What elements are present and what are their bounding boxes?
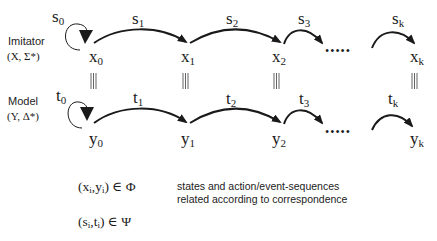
transition-arrow-t1 [94,109,186,123]
correspondence-mark-2 [274,73,279,89]
legend: (xi,yi) ∈ Φ (si,ti) ∈ Ψ states and actio… [78,179,348,230]
model-title: Model [8,95,38,107]
correspondence-diagram: Imitator (X, Σ*) s0 s1 s2 s3 ••••• sk x0… [0,0,437,241]
state-x1: x1 [181,47,195,67]
correspondence-mark-1 [183,73,188,89]
transition-arrow-t3 [284,110,322,124]
imitator-ellipsis: ••••• [325,44,351,58]
transition-arrow-t2 [190,109,280,123]
state-y0: y0 [89,129,104,149]
model-ellipsis: ••••• [325,125,351,139]
self-loop-s0: s0 [52,7,93,50]
model-row: Model (Y, Δ*) t0 t1 t2 t3 ••••• tk y0 y1… [7,86,425,149]
loop-arrowhead-icon [79,30,93,44]
state-x2: x2 [272,47,286,67]
loop-arrowhead-icon [80,107,94,121]
state-y1: y1 [181,129,195,149]
action-label-s0: s0 [52,7,65,27]
imitator-title: Imitator [8,35,45,47]
imitator-row: Imitator (X, Σ*) s0 s1 s2 s3 ••••• sk x0… [7,7,425,67]
transition-arrow-s1 [94,29,186,43]
correspondence-mark-0 [91,73,96,89]
correspondence-marks [91,73,417,89]
state-yk: yk [410,129,425,149]
caption-line-2: related according to correspondence [177,193,348,205]
correspondence-mark-k [412,73,417,89]
model-signature: (Y, Δ*) [7,110,39,123]
action-label-s1: s1 [132,9,144,29]
state-y2: y2 [272,129,286,149]
action-label-t0: t0 [56,86,67,106]
state-x0: x0 [89,47,104,67]
action-label-t2: t2 [226,89,236,109]
action-label-t1: t1 [133,88,143,108]
action-label-s2: s2 [226,9,238,29]
action-label-tk: tk [388,89,399,109]
state-relation-formula: (xi,yi) ∈ Φ [78,179,136,195]
action-label-t3: t3 [299,89,310,109]
caption-line-1: states and action/event-sequences [177,180,339,192]
action-label-sk: sk [392,9,405,29]
action-relation-formula: (si,ti) ∈ Ψ [78,214,131,230]
transition-arrow-sk [372,32,414,48]
action-label-s3: s3 [298,9,311,29]
state-xk: xk [410,47,425,67]
transition-arrow-s2 [190,29,280,43]
transition-arrow-s3 [284,30,322,44]
self-loop-t0: t0 [56,86,94,128]
imitator-signature: (X, Σ*) [7,50,40,63]
transition-arrow-tk [372,115,412,130]
